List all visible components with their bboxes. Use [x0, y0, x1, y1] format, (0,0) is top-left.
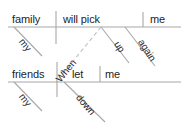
word-verb-will-pick: will pick [63, 13, 100, 25]
sentence-diagram: family will pick me my up again When fri… [0, 0, 189, 126]
word-subject-family: family [12, 13, 40, 25]
word-subject-friends: friends [12, 68, 44, 80]
word-object-me-main: me [150, 13, 165, 25]
word-object-me-subordinate: me [105, 68, 120, 80]
word-verb-let: let [72, 68, 83, 80]
